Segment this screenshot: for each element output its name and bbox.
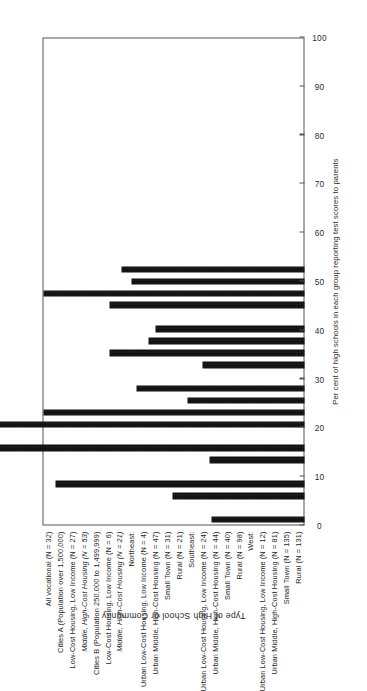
bar[interactable] xyxy=(109,349,304,356)
value-axis-tick-label: 60 xyxy=(314,227,324,237)
bar-slot xyxy=(42,409,304,416)
bar-slot xyxy=(42,349,304,356)
category-group-heading: Northeast: xyxy=(127,531,134,566)
bar-slot xyxy=(42,266,304,273)
value-axis-tick-label: 90 xyxy=(314,81,324,91)
category-axis-label: Rural (N = 98) xyxy=(235,531,242,579)
category-axis-title-text: Type of High School or Community xyxy=(101,610,245,620)
category-axis-label: Urban Middle, High-Cost Housing (N = 81) xyxy=(270,531,277,674)
bar[interactable] xyxy=(209,456,304,463)
bar[interactable] xyxy=(136,385,304,392)
category-axis-label: Middle, High-Cost Housing (N = 53) xyxy=(80,531,87,651)
category-group-heading: Southeast: xyxy=(187,531,194,567)
category-axis-label: Low-Cost Housing, Low Income (N = 27) xyxy=(68,531,75,668)
bar-slot xyxy=(42,456,304,463)
bar-slot xyxy=(42,421,304,428)
category-axis-label: All vocational (N = 32) xyxy=(44,531,51,606)
bar-slot xyxy=(42,301,304,308)
bar[interactable] xyxy=(187,397,304,404)
category-axis-label: Urban Middle, High-Cost Housing (N = 44) xyxy=(211,531,218,674)
value-axis-tick-label: 50 xyxy=(314,276,324,286)
category-axis-label: Middle, High-Cost Housing (N = 21) xyxy=(115,531,122,651)
bar[interactable] xyxy=(0,444,304,451)
category-group-heading: Cities A (Population over 1,500,000) xyxy=(56,531,63,653)
bar[interactable] xyxy=(148,337,304,344)
bar[interactable] xyxy=(55,480,304,487)
bar[interactable] xyxy=(121,266,304,273)
value-axis-tick-label: 20 xyxy=(314,422,324,432)
bar[interactable] xyxy=(109,301,304,308)
bar-slot xyxy=(42,516,304,523)
value-axis-tick-label: 10 xyxy=(314,471,324,481)
bar-slot xyxy=(42,385,304,392)
bar[interactable] xyxy=(43,409,304,416)
value-axis-tick-label: 100 xyxy=(312,32,326,42)
bar-slot xyxy=(42,361,304,368)
bar-slot xyxy=(42,492,304,499)
category-axis-label: Urban Middle, High-Cost Housing (N = 47) xyxy=(151,531,158,674)
value-axis-tick-label: 40 xyxy=(314,325,324,335)
bar[interactable] xyxy=(43,290,304,297)
bar[interactable] xyxy=(131,278,304,285)
bar-slot xyxy=(42,337,304,344)
bar[interactable] xyxy=(211,516,304,523)
bar-slot xyxy=(42,290,304,297)
bar-slot xyxy=(42,444,304,451)
category-group-heading: Cities B (Population 250,000 to 1,499,99… xyxy=(92,531,99,675)
value-axis-tick-label: 70 xyxy=(314,178,324,188)
bars-layer xyxy=(42,37,304,525)
value-axis-tick-label: 80 xyxy=(314,130,324,140)
category-axis-label: Small Town (N = 31) xyxy=(163,531,170,600)
category-group-heading: West: xyxy=(246,531,253,550)
bar[interactable] xyxy=(172,492,304,499)
value-axis-title: Per cent of high schools in each group r… xyxy=(330,37,339,525)
bar-slot xyxy=(42,397,304,404)
bar[interactable] xyxy=(202,361,304,368)
value-axis-tick-label: 0 xyxy=(317,520,322,530)
bar[interactable] xyxy=(0,421,304,428)
category-axis-label: Rural (N = 131) xyxy=(294,531,301,583)
bar[interactable] xyxy=(155,325,304,332)
category-axis-title: Type of High School or Community xyxy=(42,607,304,623)
bar-slot xyxy=(42,480,304,487)
category-axis-label: Small Town (N = 40) xyxy=(223,531,230,600)
value-axis-tick-label: 30 xyxy=(314,374,324,384)
bar-slot xyxy=(42,278,304,285)
category-axis-label: Rural (N = 21) xyxy=(175,531,182,579)
category-axis-label: Low-Cost Housing, Low Income (N = 6) xyxy=(104,531,111,664)
bar-slot xyxy=(42,325,304,332)
category-axis-label: Small Town (N = 135) xyxy=(282,531,289,604)
